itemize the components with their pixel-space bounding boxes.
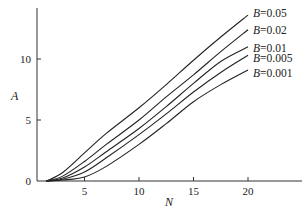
- x-tick-label: 10: [134, 185, 146, 197]
- series-label: B=0.05: [253, 7, 287, 19]
- x-tick-label: 5: [82, 185, 88, 197]
- y-ticks: 0510: [20, 53, 41, 187]
- x-ticks: 5101520: [82, 177, 254, 197]
- series-labels: B=0.05B=0.02B=0.01B=0.005B=0.001: [253, 7, 293, 79]
- y-axis: 0510 A: [10, 8, 41, 187]
- curve-b-0-02: [46, 30, 248, 181]
- y-tick-label: 5: [26, 114, 32, 126]
- y-axis-label: A: [10, 89, 19, 103]
- line-chart: 0510 A 5101520 N B=0.05B=0.02B=0.01B=0.0…: [0, 0, 307, 218]
- curve-b-0-05: [46, 15, 248, 181]
- series-label: B=0.001: [253, 67, 293, 79]
- y-tick-label: 0: [26, 175, 32, 187]
- curve-b-0-005: [46, 55, 248, 181]
- x-axis-label: N: [164, 195, 174, 209]
- series-label: B=0.02: [253, 24, 287, 36]
- y-tick-label: 10: [20, 53, 32, 65]
- x-tick-label: 20: [243, 185, 255, 197]
- x-tick-label: 15: [188, 185, 200, 197]
- plot-curves: [46, 15, 248, 181]
- series-label: B=0.005: [253, 52, 293, 64]
- curve-b-0-001: [46, 70, 248, 181]
- x-axis: 5101520 N: [37, 177, 302, 209]
